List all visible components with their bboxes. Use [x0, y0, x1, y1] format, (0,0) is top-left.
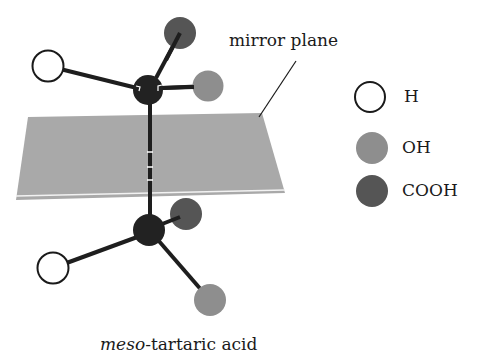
bottom-h-atom: [38, 253, 69, 284]
legend-h-label: H: [404, 86, 419, 106]
bottom-oh-atom: [194, 284, 226, 316]
top-h-atom: [33, 51, 64, 82]
bottom-carbon-atom: [133, 214, 165, 246]
legend-h-marker: [355, 82, 385, 112]
legend-cooh-label: COOH: [402, 180, 458, 200]
diagram-caption: meso-tartaric acid: [100, 334, 257, 354]
mirror-plane-label: mirror plane: [229, 30, 338, 50]
legend-cooh-marker: [356, 175, 388, 207]
legend-oh-label: OH: [402, 137, 431, 157]
caption-prefix-italic: meso: [100, 334, 145, 354]
bottom-cooh-atom: [170, 198, 202, 230]
bottom-carbon-bonds: [53, 236, 210, 300]
mirror-plane-leader-line: [259, 61, 296, 117]
legend-oh-marker: [356, 132, 388, 164]
caption-suffix: -tartaric acid: [145, 334, 257, 354]
top-oh-atom: [193, 71, 224, 102]
